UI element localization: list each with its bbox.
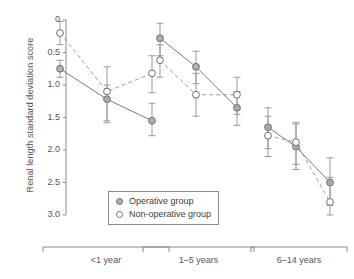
data-point-marker — [157, 35, 164, 42]
open-circle-icon — [114, 210, 125, 219]
data-point-marker — [265, 132, 272, 139]
y-tick-label: 0.5 — [26, 47, 60, 57]
renal-length-chart: Renal length standard deviation score 00… — [0, 0, 354, 279]
y-tick-label: 1.0 — [26, 79, 60, 89]
data-point-marker — [157, 57, 164, 64]
y-axis — [63, 20, 66, 215]
y-tick-label: 2.0 — [26, 144, 60, 154]
data-point-marker — [57, 30, 64, 37]
chart-plot-area — [0, 0, 354, 279]
data-point-marker — [234, 91, 241, 98]
legend-item-operative: Operative group — [114, 195, 211, 208]
y-tick-label: 1.5 — [26, 112, 60, 122]
y-tick-label: 2.5 — [26, 177, 60, 187]
chart-legend: Operative group Non-operative group — [108, 191, 219, 225]
series-line — [268, 127, 330, 182]
chart-series-layer — [57, 21, 334, 215]
y-tick-label: 3.0 — [26, 209, 60, 219]
x-group-label: 6–14 years — [251, 255, 347, 265]
data-point-marker — [104, 88, 111, 95]
data-point-marker — [57, 65, 64, 72]
x-group-label: 1–5 years — [143, 255, 254, 265]
legend-item-non-operative: Non-operative group — [114, 208, 211, 221]
legend-label-non-operative: Non-operative group — [129, 209, 211, 220]
data-point-marker — [149, 117, 156, 124]
legend-label-operative: Operative group — [129, 196, 194, 207]
x-axis-group-brackets — [43, 247, 347, 252]
series-line — [60, 33, 152, 92]
filled-circle-icon — [114, 197, 125, 206]
data-point-marker — [149, 70, 156, 77]
data-point-marker — [327, 199, 334, 206]
data-point-marker — [193, 63, 200, 70]
data-point-marker — [193, 91, 200, 98]
data-point-marker — [293, 139, 300, 146]
y-tick-label: 0 — [26, 14, 60, 24]
